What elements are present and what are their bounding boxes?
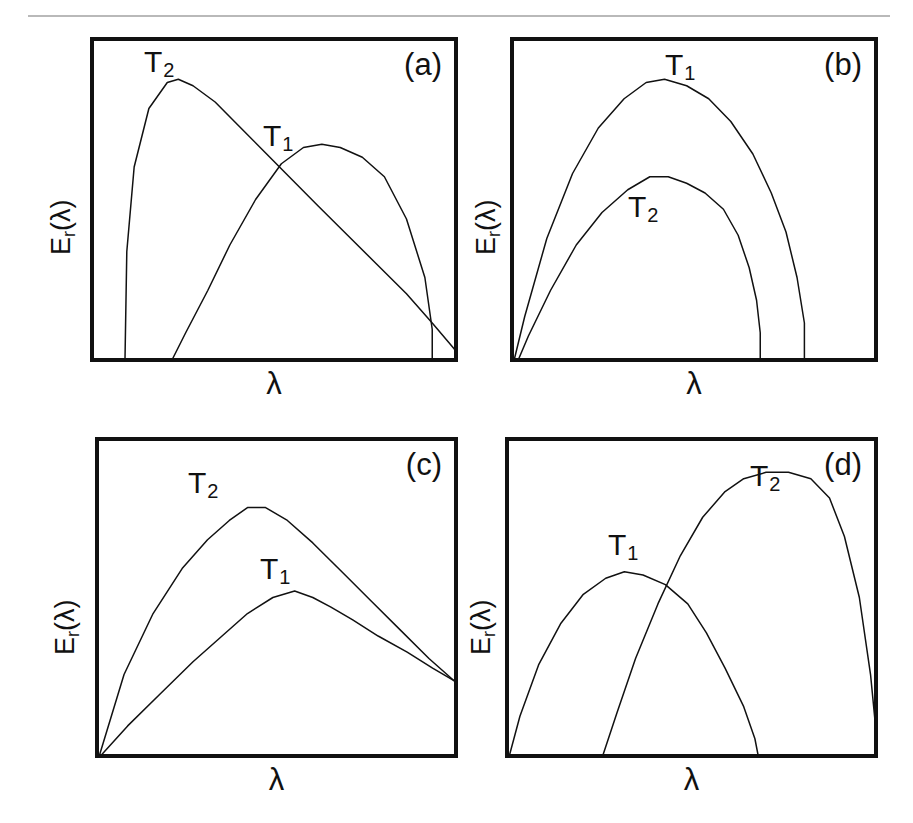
panel-c-label-t1-base: T bbox=[260, 552, 278, 585]
panel-b-label-t2-base: T bbox=[628, 190, 646, 223]
panel-b-tag: (b) bbox=[824, 49, 862, 80]
panel-d-y-axis-label: Er(λ) bbox=[468, 600, 495, 656]
panel-b: (b) T1 T2 bbox=[510, 37, 878, 362]
panel-d-plot bbox=[505, 437, 878, 758]
panel-d-label-t2-base: T bbox=[750, 459, 768, 492]
panel-c-y-axis-label: Er(λ) bbox=[52, 600, 79, 656]
panel-c-tag: (c) bbox=[406, 449, 442, 480]
curve-t1-panel-b bbox=[514, 79, 805, 362]
figure-root: (a) T2 T1 Er(λ) λ (b) T1 T2 Er(λ) λ bbox=[0, 0, 913, 823]
panel-d-label-t1-base: T bbox=[608, 528, 626, 561]
panel-a-label-t1-sub: 1 bbox=[282, 133, 293, 155]
panel-b-label-t1-base: T bbox=[665, 48, 683, 81]
panel-c-label-t1-sub: 1 bbox=[279, 566, 290, 588]
panel-a-label-t1-base: T bbox=[263, 119, 281, 152]
panel-d: (d) T1 T2 bbox=[505, 437, 878, 758]
panel-d-tag: (d) bbox=[824, 449, 862, 480]
panel-b-y-axis-label: Er(λ) bbox=[473, 200, 500, 256]
panel-d-y-axis-base: E bbox=[466, 637, 496, 655]
panel-b-x-axis-label: λ bbox=[510, 368, 878, 399]
panel-d-label-t2-sub: 2 bbox=[769, 473, 780, 495]
panel-a-label-t2-sub: 2 bbox=[163, 59, 174, 81]
panel-a-y-axis-base: E bbox=[46, 237, 76, 255]
panel-c-label-t2: T2 bbox=[188, 468, 217, 498]
panel-c: (c) T2 T1 bbox=[95, 437, 458, 758]
panel-d-y-axis-sub: r bbox=[479, 631, 499, 637]
panel-b-y-axis-sub: r bbox=[484, 231, 504, 237]
panel-a: (a) T2 T1 bbox=[90, 37, 458, 362]
panel-c-y-axis-tail: (λ) bbox=[50, 600, 80, 631]
panel-a-tag: (a) bbox=[404, 49, 442, 80]
panel-c-y-axis-base: E bbox=[50, 637, 80, 655]
panel-c-label-t1: T1 bbox=[260, 554, 289, 584]
panel-a-y-axis-label: Er(λ) bbox=[48, 200, 75, 256]
panel-b-y-axis-base: E bbox=[471, 237, 501, 255]
curve-t2-panel-d bbox=[602, 472, 878, 758]
panel-b-label-t1: T1 bbox=[665, 50, 694, 80]
panel-c-y-axis-sub: r bbox=[63, 631, 83, 637]
panel-b-label-t2: T2 bbox=[628, 192, 657, 222]
panel-b-label-t1-sub: 1 bbox=[684, 62, 695, 84]
curve-t1-panel-a bbox=[171, 144, 432, 362]
panel-d-label-t1-sub: 1 bbox=[627, 542, 638, 564]
top-horizontal-rule bbox=[28, 15, 890, 17]
panel-a-y-axis-tail: (λ) bbox=[46, 200, 76, 231]
panel-a-plot bbox=[90, 37, 458, 362]
panel-c-label-t2-sub: 2 bbox=[207, 480, 218, 502]
panel-c-x-axis-label: λ bbox=[95, 764, 458, 795]
panel-d-x-axis-label: λ bbox=[505, 764, 878, 795]
panel-c-plot bbox=[95, 437, 458, 758]
panel-d-label-t2: T2 bbox=[750, 461, 779, 491]
panel-b-plot bbox=[510, 37, 878, 362]
panel-a-label-t2-base: T bbox=[144, 45, 162, 78]
panel-a-x-axis-label: λ bbox=[90, 368, 458, 399]
panel-d-label-t1: T1 bbox=[608, 530, 637, 560]
panel-a-label-t1: T1 bbox=[263, 121, 292, 151]
curve-t2-panel-c bbox=[99, 508, 455, 758]
panel-a-y-axis-sub: r bbox=[59, 231, 79, 237]
panel-a-label-t2: T2 bbox=[144, 47, 173, 77]
panel-b-label-t2-sub: 2 bbox=[647, 204, 658, 226]
panel-d-y-axis-tail: (λ) bbox=[466, 600, 496, 631]
panel-c-label-t2-base: T bbox=[188, 466, 206, 499]
panel-b-y-axis-tail: (λ) bbox=[471, 200, 501, 231]
